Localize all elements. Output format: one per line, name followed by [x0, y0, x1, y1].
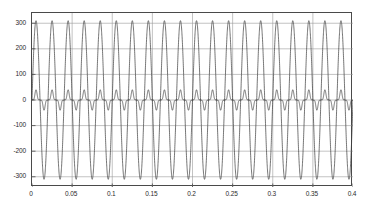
chart-figure: -300-200-1000100200300 00.050.10.150.20.… — [0, 0, 371, 212]
plot-area — [31, 12, 352, 186]
x-axis-tick-label: 0.25 — [217, 190, 247, 197]
y-axis-tick-label: 0 — [0, 96, 26, 103]
plot-canvas — [32, 13, 353, 187]
x-axis-tick-label: 0.15 — [136, 190, 166, 197]
x-axis-tick-label: 0.35 — [297, 190, 327, 197]
y-axis-tick-label: 300 — [0, 19, 26, 26]
x-axis-tick-label: 0.05 — [56, 190, 86, 197]
x-axis-tick-label: 0.2 — [177, 190, 207, 197]
y-axis-tick-label: -300 — [0, 172, 26, 179]
y-axis-tick-label: 200 — [0, 44, 26, 51]
y-axis-tick-label: -100 — [0, 121, 26, 128]
x-axis-tick-label: 0 — [16, 190, 46, 197]
y-axis-tick-label: 100 — [0, 70, 26, 77]
y-axis-tick-label: -200 — [0, 147, 26, 154]
x-axis-tick-label: 0.4 — [337, 190, 367, 197]
x-axis-tick-label: 0.1 — [96, 190, 126, 197]
x-axis-tick-label: 0.3 — [257, 190, 287, 197]
